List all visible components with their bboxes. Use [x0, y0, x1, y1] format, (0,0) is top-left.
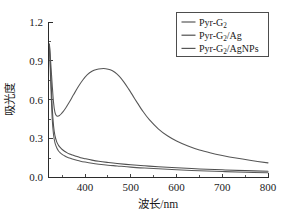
- legend-label-main-2: Pyr-G: [199, 43, 223, 54]
- legend-label-main-1: Pyr-G: [199, 30, 223, 41]
- legend: Pyr-G2Pyr-G2/AgPyr-G2/AgNPs: [177, 13, 269, 57]
- absorbance-spectrum-figure: 400500600700800 0.00.30.60.91.2 波长/nm 吸光…: [0, 0, 282, 224]
- x-axis-title: 波长/nm: [138, 198, 178, 210]
- chart-canvas: 400500600700800 0.00.30.60.91.2 波长/nm 吸光…: [0, 0, 282, 224]
- y-tick-label: 0.9: [29, 55, 43, 67]
- x-tick-label: 700: [214, 181, 231, 193]
- y-tick-label: 0.3: [29, 132, 43, 144]
- x-tick-labels: 400500600700800: [77, 181, 277, 193]
- legend-label-sub-0: 2: [223, 22, 227, 30]
- y-tick-label: 1.2: [29, 16, 43, 28]
- y-tick-label: 0.6: [29, 94, 43, 106]
- x-tick-label: 600: [168, 181, 185, 193]
- x-tick-label: 400: [77, 181, 94, 193]
- legend-label-main-0: Pyr-G: [199, 17, 223, 28]
- y-tick-labels: 0.00.30.60.91.2: [29, 16, 43, 184]
- x-tick-label: 500: [123, 181, 140, 193]
- series-line-0: [49, 45, 268, 173]
- legend-label-tail-1: /Ag: [227, 30, 242, 41]
- y-axis-title: 吸光度: [3, 82, 16, 116]
- x-tick-label: 800: [260, 181, 277, 193]
- series-line-1: [49, 44, 268, 171]
- data-series: [49, 44, 268, 173]
- legend-label-tail-2: /AgNPs: [227, 43, 259, 54]
- y-tick-label: 0.0: [29, 171, 43, 183]
- series-line-2: [49, 44, 268, 163]
